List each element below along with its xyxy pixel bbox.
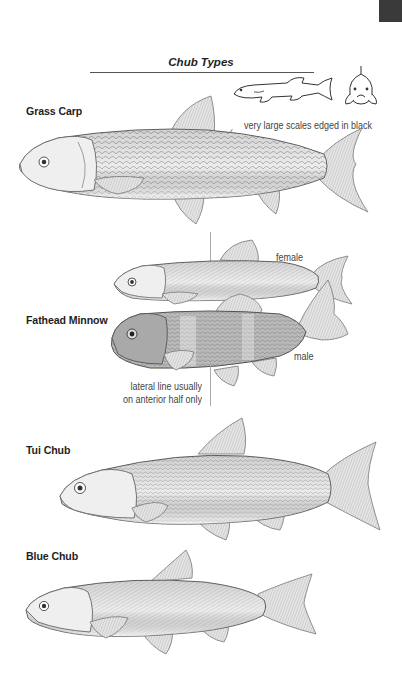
annotation-leader-line (210, 362, 211, 406)
blue-chub-illustration (24, 548, 318, 660)
annotation-lateral-line-2: on anterior half only (110, 394, 202, 405)
section-thumb-tab (379, 0, 402, 22)
tui-chub-illustration (58, 418, 384, 546)
annotation-lateral-line-1: lateral line usually (110, 381, 202, 392)
species-label-fathead-minnow: Fathead Minnow (26, 314, 108, 326)
title-divider (90, 72, 314, 73)
grass-carp-illustration (18, 94, 370, 230)
fathead-minnow-male-illustration (110, 278, 360, 388)
annotation-fathead-male: male (294, 351, 314, 362)
